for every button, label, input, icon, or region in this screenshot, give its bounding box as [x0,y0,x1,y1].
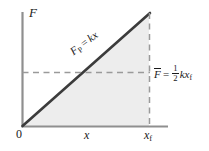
xf-tick-label: xf [144,129,152,143]
average-force-tail: kx [180,68,190,80]
average-force-tail-subscript: f [189,73,192,82]
average-force-equation: F = 12kxf [154,64,192,82]
fraction-denominator: 2 [172,74,178,83]
average-force-symbol: F [154,68,161,80]
xf-tick-subscript: f [149,133,152,143]
origin-label: 0 [16,128,22,140]
y-axis-label: F [29,6,37,19]
one-half-fraction: 12 [172,64,178,82]
x-tick-label: x [84,129,89,141]
spring-force-diagram: F 0 x xf FP = kx F = 12kxf [0,0,209,151]
